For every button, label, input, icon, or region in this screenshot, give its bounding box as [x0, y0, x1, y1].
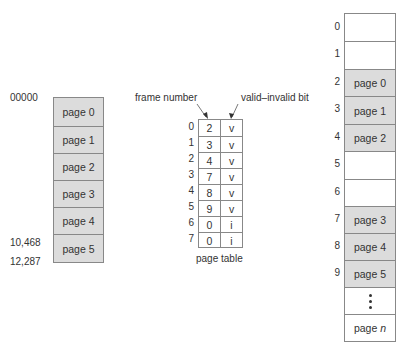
- page-table-row: 4 v: [199, 152, 242, 168]
- pt-index-7: 7: [184, 233, 194, 244]
- frame-index-3: 3: [330, 103, 340, 114]
- frame-2: page 0: [345, 69, 395, 96]
- pt-index-0: 0: [184, 121, 194, 132]
- frame-index-9: 9: [330, 267, 340, 278]
- frame-0: [345, 14, 395, 41]
- pt-index-6: 6: [184, 217, 194, 228]
- pt-frame: 0: [199, 233, 220, 248]
- frame-index-5: 5: [330, 158, 340, 169]
- frame-ellipsis: [345, 287, 395, 314]
- page-n-var: n: [380, 322, 386, 334]
- pt-index-2: 2: [184, 153, 194, 164]
- frame-3: page 1: [345, 96, 395, 124]
- page-table-row: 0 i: [199, 232, 242, 248]
- pt-bit: v: [220, 153, 242, 168]
- pt-bit: v: [220, 169, 242, 184]
- vertical-ellipsis-icon: [369, 294, 372, 309]
- frame-5: [345, 151, 395, 179]
- pt-index-5: 5: [184, 201, 194, 212]
- page-table-row: 2 v: [199, 120, 242, 136]
- frame-7: page 3: [345, 206, 395, 233]
- pt-index-1: 1: [184, 137, 194, 148]
- pt-index-3: 3: [184, 169, 194, 180]
- pt-bit: v: [220, 185, 242, 200]
- pt-frame: 3: [199, 137, 220, 152]
- pt-bit: v: [220, 137, 242, 152]
- pt-frame: 4: [199, 153, 220, 168]
- physical-memory-box: page 0 page 1 page 2 page 3 page 4 page …: [344, 13, 396, 342]
- frame-8: page 4: [345, 233, 395, 260]
- frame-4: page 2: [345, 124, 395, 151]
- pt-bit: i: [220, 217, 242, 232]
- pt-frame: 7: [199, 169, 220, 184]
- page-n-prefix: page: [354, 322, 380, 334]
- frame-index-0: 0: [330, 21, 340, 32]
- pt-frame: 2: [199, 120, 220, 136]
- page-table: 2 v 3 v 4 v 7 v 8 v 9 v 0 i 0 i: [198, 119, 243, 248]
- pt-bit: v: [220, 120, 242, 136]
- frame-index-8: 8: [330, 240, 340, 251]
- frame-index-2: 2: [330, 76, 340, 87]
- page-table-row: 8 v: [199, 184, 242, 200]
- page-table-row: 7 v: [199, 168, 242, 184]
- pt-bit: v: [220, 201, 242, 216]
- page-table-caption: page table: [196, 253, 243, 264]
- page-table-row: 3 v: [199, 136, 242, 152]
- pt-frame: 8: [199, 185, 220, 200]
- frame-index-7: 7: [330, 213, 340, 224]
- frame-index-6: 6: [330, 186, 340, 197]
- frame-index-1: 1: [330, 48, 340, 59]
- frame-9: page 5: [345, 260, 395, 287]
- frame-page-n: page n: [345, 314, 395, 341]
- pt-bit: i: [220, 233, 242, 248]
- frame-1: [345, 41, 395, 69]
- page-table-row: 9 v: [199, 200, 242, 216]
- frame-index-4: 4: [330, 131, 340, 142]
- pt-index-4: 4: [184, 185, 194, 196]
- pt-frame: 9: [199, 201, 220, 216]
- pt-frame: 0: [199, 217, 220, 232]
- page-table-row: 0 i: [199, 216, 242, 232]
- frame-6: [345, 179, 395, 206]
